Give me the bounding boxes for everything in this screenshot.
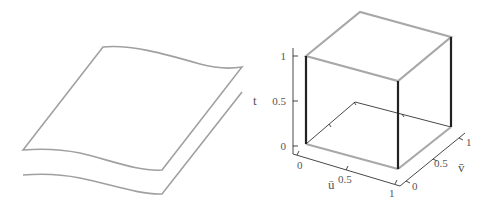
- v-tick-0: 0: [412, 180, 418, 192]
- u-tick-0.5: 0.5: [338, 173, 352, 185]
- u-tick-0: 0: [297, 159, 303, 171]
- floor-back-edge: [355, 102, 451, 127]
- cube-gray-edges: [306, 12, 451, 169]
- v-axis-label: v̄: [458, 160, 465, 175]
- floor-left-edge: [306, 102, 355, 144]
- v-tick-0.5: 0.5: [434, 157, 448, 169]
- t-tick-0.5: 0.5: [272, 95, 286, 107]
- cube-plot-drawing: 1 0.5 0 t 0 0.5 1 ū 0 0.5 1 v̄: [0, 0, 489, 205]
- unit-cube-plot: 1 0.5 0 t 0 0.5 1 ū 0 0.5 1 v̄: [0, 0, 489, 205]
- v-tick-1: 1: [466, 136, 472, 148]
- t-tick-0: 0: [281, 140, 287, 152]
- t-axis-label: t: [253, 93, 257, 108]
- u-axis-label: ū: [328, 177, 335, 192]
- u-tick-1: 1: [389, 187, 395, 199]
- t-tick-1: 1: [281, 50, 287, 62]
